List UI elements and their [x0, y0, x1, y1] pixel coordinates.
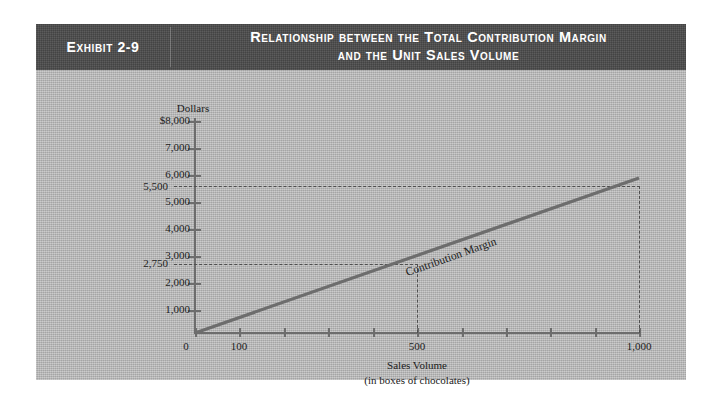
x-tick-label-1000: 1,000: [627, 340, 652, 352]
exhibit-label: Exhibit 2-9: [67, 39, 140, 55]
y-tick-label-5500: 5,500: [143, 180, 168, 192]
x-axis-caption: Sales Volume (in boxes of chocolates): [195, 358, 639, 388]
y-axis-title: Dollars: [158, 102, 228, 114]
y-tick-label-4000: 4,000: [165, 222, 190, 234]
x-tick-label-0: 0: [183, 340, 189, 352]
y-tick-label-6000: 6,000: [165, 168, 190, 180]
guide-line-vertical-1000: [639, 186, 640, 333]
chart-panel: Dollars $8,000 7,000 6,000 5,500 5,000 4…: [36, 70, 686, 380]
y-tick-label-5000: 5,000: [165, 195, 190, 207]
plot-area: Dollars $8,000 7,000 6,000 5,500 5,000 4…: [36, 70, 686, 380]
exhibit-number-cell: Exhibit 2-9: [36, 24, 170, 70]
y-tick-label-3000: 3,000: [165, 249, 190, 261]
y-tick-label-2000: 2,000: [165, 276, 190, 288]
x-axis-subtitle: (in boxes of chocolates): [364, 374, 469, 386]
exhibit-header-band: Exhibit 2-9 Relationship between the Tot…: [36, 24, 686, 70]
page-title: Relationship between the Total Contribut…: [242, 29, 615, 64]
contribution-margin-line: [195, 178, 639, 333]
x-axis-title: Sales Volume: [387, 359, 447, 371]
y-tick-label-7000: 7,000: [165, 141, 190, 153]
y-tick-label-1000: 1,000: [165, 303, 190, 315]
exhibit-figure: Exhibit 2-9 Relationship between the Tot…: [36, 20, 686, 380]
chart-title-line-1: Relationship between the Total Contribut…: [250, 29, 607, 45]
chart-title-line-2: and the Unit Sales Volume: [338, 47, 519, 63]
chart-title-cell: Relationship between the Total Contribut…: [171, 24, 686, 70]
y-tick-label-8000: $8,000: [160, 114, 190, 126]
x-tick-label-500: 500: [409, 340, 426, 352]
y-tick-label-2750: 2,750: [143, 257, 168, 269]
x-tick-label-100: 100: [231, 340, 248, 352]
